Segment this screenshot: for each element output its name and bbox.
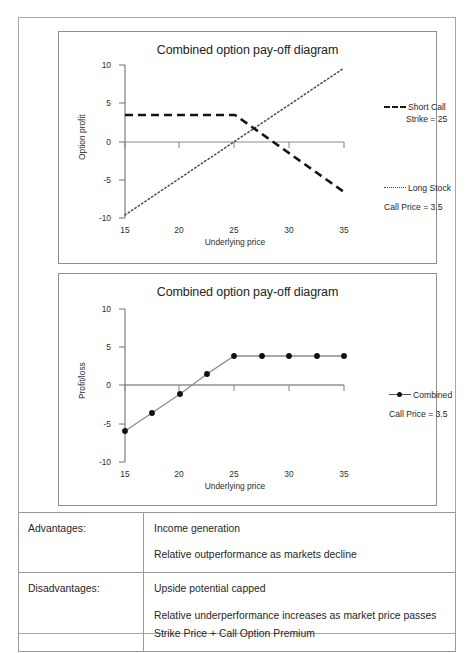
x-tick-label: 35	[331, 225, 357, 235]
list-item: Income generation	[154, 520, 447, 538]
y-tick-label: 10	[87, 60, 111, 70]
legend-label: Combined	[413, 390, 452, 400]
y-tick-label: 10	[87, 304, 111, 314]
x-axis-title: Underlying price	[135, 481, 335, 491]
list-item: Relative outperformance as markets decli…	[154, 546, 447, 564]
legend-note: Call Price = 3.5	[384, 201, 451, 213]
x-tick-label: 15	[112, 469, 138, 479]
list-item: Relative underperformance increases as m…	[154, 607, 447, 643]
x-tick-label: 25	[221, 225, 247, 235]
chart-card-combined: Combined option pay-off diagram	[58, 273, 437, 506]
y-tick-label: 5	[87, 342, 111, 352]
table-row: Disadvantages: Upside potential capped R…	[19, 573, 456, 652]
y-tick-label: -10	[87, 213, 111, 223]
y-axis-title: Option profit	[77, 114, 87, 160]
y-tick-label: 5	[87, 98, 111, 108]
x-tick-label: 25	[221, 469, 247, 479]
legend-label: Long Stock	[408, 183, 451, 193]
row-body: Upside potential capped Relative underpe…	[144, 573, 456, 652]
x-axis-title: Underlying price	[135, 237, 335, 247]
legend-label: Short Call	[408, 102, 446, 112]
x-tick-label: 20	[166, 469, 192, 479]
x-tick-label: 15	[112, 225, 138, 235]
x-tick-label: 30	[276, 469, 302, 479]
x-tick-label: 35	[331, 469, 357, 479]
table-row: Advantages: Income generation Relative o…	[19, 513, 456, 573]
chart-card-short-call: Combined option pay-off diagram 10	[58, 31, 437, 264]
y-tick-label: -5	[87, 175, 111, 185]
advantages-disadvantages-table: Advantages: Income generation Relative o…	[18, 512, 456, 652]
row-label: Disadvantages:	[19, 573, 144, 652]
y-tick-label: -10	[87, 457, 111, 467]
legend-swatch-marker-icon	[389, 394, 411, 395]
x-tick-label: 30	[276, 225, 302, 235]
y-axis-title: Profit/loss	[77, 362, 87, 399]
legend-note: Strike = 25	[384, 113, 447, 125]
row-body: Income generation Relative outperformanc…	[144, 513, 456, 573]
list-item: Upside potential capped	[154, 580, 447, 598]
legend-swatch-dashed-icon	[384, 106, 406, 108]
legend-note: Call Price = 3.5	[389, 408, 452, 420]
y-tick-label: 0	[87, 380, 111, 390]
legend-entry-combined: Combined Call Price = 3.5	[389, 389, 452, 421]
y-tick-label: 0	[87, 137, 111, 147]
legend-swatch-dotted-icon	[384, 187, 406, 188]
legend-entry-short-call: Short Call Strike = 25	[384, 101, 447, 126]
x-tick-label: 20	[166, 225, 192, 235]
legend-entry-long-stock: Long Stock Call Price = 3.5	[384, 182, 451, 214]
row-label: Advantages:	[19, 513, 144, 573]
y-tick-label: -5	[87, 419, 111, 429]
